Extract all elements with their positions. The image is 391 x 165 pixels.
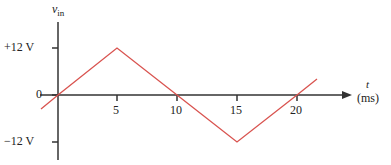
x-axis-unit: (ms): [357, 91, 379, 106]
y-axis-label: vin: [52, 2, 64, 18]
y-tick-zero: 0: [36, 87, 42, 102]
x-axis-arrow-icon: [342, 91, 352, 99]
triangle-wave-plot: [0, 0, 391, 165]
x-tick-20: 20: [290, 103, 302, 118]
x-tick-5: 5: [113, 103, 119, 118]
y-tick-plus12: +12 V: [4, 40, 34, 55]
x-tick-10: 10: [170, 103, 182, 118]
x-tick-15: 15: [230, 103, 242, 118]
x-axis-label: t: [366, 78, 369, 90]
y-tick-minus12: −12 V: [4, 134, 34, 149]
